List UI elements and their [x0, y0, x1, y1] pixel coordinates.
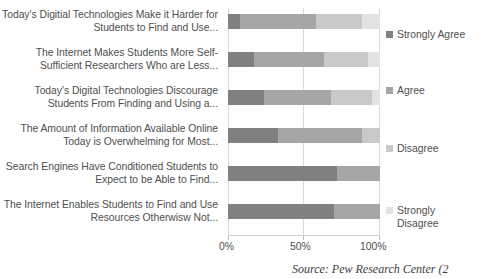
bar-segment — [228, 204, 334, 219]
legend-swatch-icon — [386, 207, 393, 214]
legend-item-disagree: Disagree — [386, 142, 439, 155]
category-label: The Amount of Information Available Onli… — [0, 122, 218, 148]
x-tick-label: 100% — [360, 241, 387, 253]
x-tick-mark — [303, 236, 304, 240]
bar-segment — [254, 52, 324, 67]
legend-label: Agree — [397, 84, 425, 97]
legend-item-agree: Agree — [386, 84, 425, 97]
bar-segment — [362, 128, 380, 143]
gridline-100 — [379, 8, 380, 236]
source-note: Source: Pew Research Center (2 — [292, 262, 448, 276]
category-label: Today's Digitial Technologies Make it Ha… — [0, 8, 218, 34]
legend-swatch-icon — [386, 87, 393, 94]
legend-swatch-icon — [386, 145, 393, 152]
bar-row — [228, 166, 380, 181]
bar-segment — [324, 52, 368, 67]
category-label: Today's Digital Technologies Discourage … — [0, 84, 218, 110]
bar-segment — [228, 14, 240, 29]
gridline-50 — [303, 8, 304, 236]
bar-segment — [334, 204, 380, 219]
category-axis-labels: Today's Digitial Technologies Make it Ha… — [0, 8, 222, 236]
bar-segment — [228, 166, 337, 181]
legend-item-strongly-agree: Strongly Agree — [386, 28, 465, 41]
bar-segment — [278, 128, 362, 143]
x-tick-mark — [228, 236, 229, 240]
bar-segment — [228, 90, 264, 105]
bar-segment — [362, 14, 380, 29]
bar-row — [228, 14, 380, 29]
bar-segment — [264, 90, 331, 105]
bar-segment — [337, 166, 380, 181]
legend-label: Strongly Disagree — [397, 204, 475, 230]
legend-label: Strongly Agree — [397, 28, 465, 41]
x-tick-mark — [379, 236, 380, 240]
legend-swatch-icon — [386, 31, 393, 38]
plot-area — [228, 8, 380, 236]
bar-segment — [316, 14, 362, 29]
bar-row — [228, 90, 380, 105]
category-label: The Internet Enables Students to Find an… — [0, 198, 218, 224]
bar-segment — [228, 52, 254, 67]
x-tick-label: 50% — [290, 241, 311, 253]
bar-row — [228, 204, 380, 219]
chart-legend: Strongly Agree Agree Disagree Strongly D… — [386, 18, 482, 238]
x-axis-ticks: 0% 50% 100% — [228, 236, 380, 254]
bar-segment — [331, 90, 372, 105]
legend-label: Disagree — [397, 142, 439, 155]
bar-segment — [368, 52, 380, 67]
legend-item-strongly-disagree: Strongly Disagree — [386, 204, 475, 230]
bar-segment — [240, 14, 316, 29]
category-label: The Internet Makes Students More Self-Su… — [0, 46, 218, 72]
bar-segment — [372, 90, 380, 105]
gridline-0 — [228, 8, 229, 236]
bar-row — [228, 52, 380, 67]
category-label: Search Engines Have Conditioned Students… — [0, 160, 218, 186]
bar-segment — [228, 128, 278, 143]
bar-row — [228, 128, 380, 143]
x-tick-label: 0% — [219, 241, 234, 253]
stacked-bar-chart: Today's Digitial Technologies Make it Ha… — [0, 0, 484, 279]
